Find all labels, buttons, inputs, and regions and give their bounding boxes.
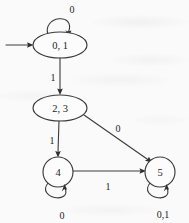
state-label-2-3: 2, 3: [52, 103, 68, 114]
state-label-4: 4: [55, 167, 61, 178]
transition-s01-self-loop: 0: [47, 4, 74, 36]
diagram-canvas: 0 0, 1 1 2, 3 0 1: [0, 0, 189, 223]
state-node-4[interactable]: 4: [43, 157, 73, 187]
transition-label-s01-self: 0: [70, 4, 75, 15]
state-node-0-1[interactable]: 0, 1: [33, 32, 87, 58]
transition-label-s23-s5: 0: [116, 123, 121, 134]
transition-s01-to-s23: 1: [51, 58, 63, 95]
transition-label-s4-self: 0: [60, 210, 65, 221]
transition-s23-to-s4: 1: [50, 121, 61, 158]
transition-s5-self-loop: 0,1: [148, 183, 170, 220]
transition-label-s23-s4: 1: [50, 135, 55, 146]
state-node-2-3[interactable]: 2, 3: [33, 95, 87, 121]
state-machine-svg: 0 0, 1 1 2, 3 0 1: [0, 0, 189, 223]
transition-label-s01-s23: 1: [51, 72, 56, 83]
state-label-0-1: 0, 1: [52, 40, 68, 51]
state-label-5: 5: [157, 167, 162, 178]
transition-label-s4-s5: 1: [106, 181, 111, 192]
transition-s4-to-s5: 1: [73, 168, 146, 191]
transition-label-s5-self: 0,1: [157, 209, 170, 220]
start-arrow: [6, 42, 34, 48]
transition-s23-to-s5: 0: [84, 115, 153, 163]
transition-line-s23-s4: [58, 121, 59, 152]
state-node-5[interactable]: 5: [145, 157, 175, 187]
transition-s4-self-loop: 0: [46, 183, 68, 221]
